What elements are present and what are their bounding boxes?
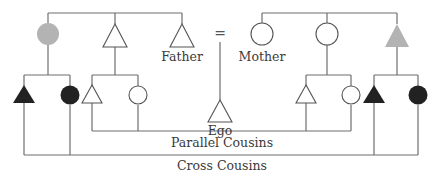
mothers-brother-triangle <box>385 24 409 47</box>
cross-cousins-label: Cross Cousins <box>177 160 267 173</box>
parallel-cousin-female-right <box>342 86 360 104</box>
cross-cousin-male-right <box>363 85 385 103</box>
mother-circle <box>251 23 273 45</box>
parallel-cousins-label: Parallel Cousins <box>171 137 273 150</box>
mothers-sister-circle <box>316 23 338 45</box>
cross-cousin-female-left <box>61 86 80 105</box>
ego-triangle <box>208 100 232 122</box>
parallel-cousin-female-left <box>129 86 147 104</box>
father-triangle <box>170 24 194 47</box>
cross-cousin-female-right <box>409 86 428 105</box>
father-label: Father <box>161 51 203 64</box>
marriage-symbol: = <box>214 26 226 40</box>
parallel-cousin-male-right <box>296 85 316 103</box>
fathers-brother-triangle <box>103 24 127 47</box>
parallel-cousin-male-left <box>82 85 102 103</box>
mother-label: Mother <box>239 51 286 64</box>
fathers-sister-circle <box>37 23 59 45</box>
cross-cousin-male-left <box>13 85 35 103</box>
